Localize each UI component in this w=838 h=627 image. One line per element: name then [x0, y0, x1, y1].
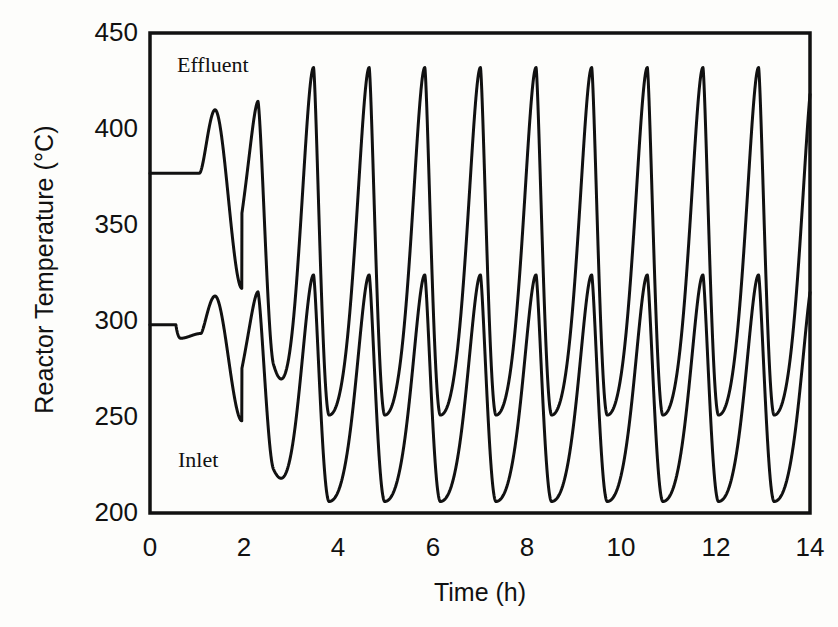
plot-svg: [0, 0, 838, 627]
effluent-curve: [150, 68, 810, 415]
chart-figure: Reactor Temperature (°C) 450 400 350 300…: [0, 0, 838, 627]
